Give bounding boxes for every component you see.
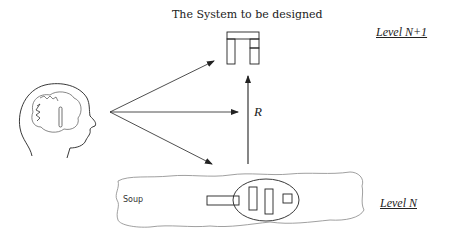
diagram-canvas: The System to be designed Level N+1 Leve… <box>0 0 449 243</box>
relation-label: R <box>254 104 262 120</box>
arrow-to-soup <box>110 112 212 164</box>
arrow-to-system <box>110 61 214 112</box>
level-lower-label: Level N <box>380 196 417 211</box>
level-upper-label: Level N+1 <box>376 25 427 40</box>
diagram-title: The System to be designed <box>172 8 352 21</box>
soup-cloud <box>116 172 364 227</box>
system-block-icon <box>227 32 259 64</box>
soup-label: Soup <box>123 195 143 204</box>
head-with-thoughts-icon <box>19 84 95 158</box>
ellipse-with-components <box>207 179 299 221</box>
